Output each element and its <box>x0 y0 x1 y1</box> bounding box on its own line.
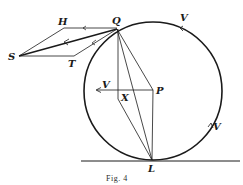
label-P: P <box>155 85 164 96</box>
label-T: T <box>68 58 77 69</box>
label-X: X <box>120 92 130 103</box>
label-Q: Q <box>112 15 121 26</box>
rolling-wheel-diagram: Q H S T P X L V V V Fig. 4 <box>0 0 243 185</box>
label-V-top: V <box>180 12 189 23</box>
label-H: H <box>57 16 68 27</box>
line-PL <box>152 90 153 160</box>
label-L: L <box>147 163 155 174</box>
figure-caption: Fig. 4 <box>106 174 128 183</box>
label-S: S <box>8 51 15 62</box>
line-QP <box>117 29 153 90</box>
label-V-left: V <box>102 79 111 90</box>
line-XL <box>118 99 152 160</box>
line-QS-resultant <box>19 29 117 56</box>
label-V-right: V <box>213 121 222 132</box>
line-HS <box>19 28 64 56</box>
